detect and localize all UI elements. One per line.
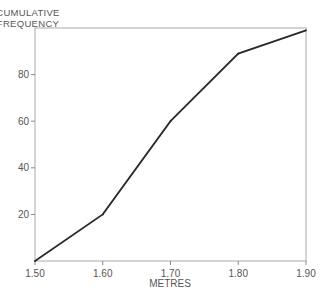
- x-tick-label: 1.60: [93, 268, 113, 279]
- y-axis-ticks: 20406080: [18, 69, 35, 220]
- y-tick-label: 20: [18, 209, 30, 220]
- data-point: [305, 29, 307, 31]
- x-tick-label: 1.90: [296, 268, 316, 279]
- x-tick-label: 1.50: [25, 268, 45, 279]
- y-tick-label: 40: [18, 162, 30, 173]
- y-tick-label: 80: [18, 69, 30, 80]
- x-axis-ticks: 1.501.601.701.801.90: [25, 261, 316, 279]
- data-point: [102, 214, 104, 216]
- x-axis-label: METRES: [149, 278, 191, 289]
- data-point: [237, 53, 239, 55]
- y-tick-label: 60: [18, 116, 30, 127]
- data-point: [34, 260, 36, 262]
- series-line: [35, 30, 306, 261]
- plot-frame: [35, 28, 306, 261]
- x-tick-label: 1.80: [229, 268, 249, 279]
- data-point: [170, 120, 172, 122]
- cumulative-frequency-chart: CUMULATIVE FREQUENCY 20406080 1.501.601.…: [0, 0, 326, 300]
- y-axis-label-line-2: FREQUENCY: [0, 18, 60, 29]
- series-group: [34, 29, 307, 261]
- y-axis-label-line-1: CUMULATIVE: [0, 7, 60, 18]
